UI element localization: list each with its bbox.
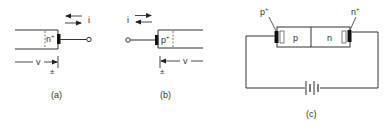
p-plus-leader-line — [269, 17, 276, 31]
panel-b: p+ i v ± (b) — [126, 15, 203, 100]
n-region-label: n — [327, 33, 332, 43]
left-contact — [275, 31, 279, 43]
n-plus-leader-line — [350, 17, 356, 30]
ohmic-contact — [57, 34, 61, 44]
n-plus-label: n+ — [46, 33, 55, 44]
current-label: i — [88, 15, 90, 25]
p-region-label: p — [293, 33, 298, 43]
terminal-circle-icon — [87, 37, 91, 41]
terminal-circle-icon — [126, 38, 130, 42]
p-plus-label: p+ — [260, 6, 269, 17]
voltage-label: v — [36, 57, 41, 67]
polarity-sign: ± — [50, 67, 55, 76]
panel-a: n+ i v ± (a) — [15, 15, 91, 100]
right-contact — [348, 30, 352, 42]
caption-a: (a) — [51, 90, 62, 100]
pn-bar — [277, 27, 350, 47]
circuit-wire-left — [246, 36, 305, 88]
current-label: i — [127, 15, 129, 25]
caption-b: (b) — [160, 90, 171, 100]
n-plus-region — [342, 31, 346, 43]
polarity-sign: ± — [160, 67, 165, 76]
p-plus-label: p+ — [161, 34, 170, 45]
caption-c: (c) — [306, 109, 317, 119]
battery-icon — [306, 81, 318, 95]
voltage-label: v — [183, 56, 188, 66]
panel-c: p n p+ n+ (c) — [246, 6, 378, 119]
n-plus-label: n+ — [351, 6, 360, 17]
diagram-canvas: n+ i v ± (a) p+ i v ± (b) p — [0, 0, 390, 128]
p-plus-region — [280, 31, 284, 43]
